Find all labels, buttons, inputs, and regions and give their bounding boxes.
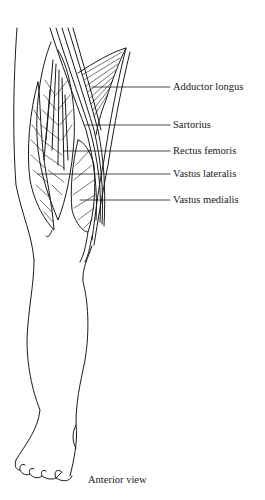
figure-caption: Anterior view [88,474,147,485]
label-vastus-lateralis: Vastus lateralis [173,168,236,180]
adductor-longus [78,48,126,135]
label-vastus-medialis: Vastus medialis [173,194,239,206]
label-rectus-femoris: Rectus femoris [173,145,236,157]
toes [20,464,62,478]
label-adductor-longus: Adductor longus [173,81,243,93]
label-sartorius: Sartorius [173,119,211,131]
leg-muscle-illustration [0,0,265,500]
leg-outline-lateral [14,28,40,460]
